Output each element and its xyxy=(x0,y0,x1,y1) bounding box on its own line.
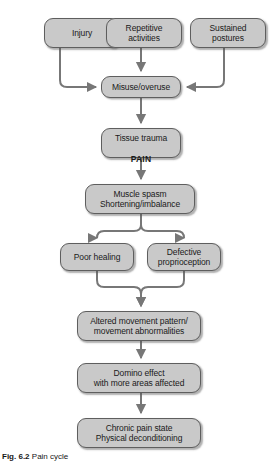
node-altered-movement-pattern: Altered movement pattern/ movement abnor… xyxy=(77,311,201,341)
node-misuse-overuse-label: Misuse/overuse xyxy=(109,82,173,93)
node-sustained-postures: Sustained postures xyxy=(190,18,266,48)
node-tissue-trauma-pain-label: Tissue trauma PAIN xyxy=(112,122,170,164)
tissue-trauma-text: Tissue trauma xyxy=(115,133,167,143)
edge-spasm-to-proprioception xyxy=(141,214,184,238)
node-domino-effect: Domino effect with more areas affected xyxy=(77,363,201,393)
edge-proprioception-to-altered xyxy=(141,271,184,306)
node-defective-proprioception-label: Defective proprioception xyxy=(155,247,213,268)
node-injury-label: Injury xyxy=(69,28,95,39)
edge-poorhealing-to-altered xyxy=(97,271,141,306)
edge-sustained-to-misuse xyxy=(187,48,224,87)
node-domino-effect-label: Domino effect with more areas affected xyxy=(91,368,188,389)
node-misuse-overuse: Misuse/overuse xyxy=(101,76,181,98)
figure-caption-label: Fig. 6.2 xyxy=(2,452,30,461)
node-muscle-spasm-label: Muscle spasm Shortening/imbalance xyxy=(97,189,183,210)
node-tissue-trauma-pain: Tissue trauma PAIN xyxy=(101,128,181,158)
edge-injury-to-misuse xyxy=(60,48,96,87)
arrow-layer xyxy=(0,0,277,463)
node-poor-healing: Poor healing xyxy=(60,243,134,271)
node-altered-movement-pattern-label: Altered movement pattern/ movement abnor… xyxy=(87,316,191,337)
edge-spasm-to-poorhealing xyxy=(97,214,141,238)
node-repetitive-activities-label: Repetitive activities xyxy=(123,23,166,44)
pain-cycle-flowchart: Injury Repetitive activities Sustained p… xyxy=(0,0,277,463)
node-poor-healing-label: Poor healing xyxy=(71,252,124,263)
node-repetitive-activities: Repetitive activities xyxy=(106,18,182,48)
figure-caption: Fig. 6.2 Pain cycle xyxy=(2,452,68,461)
figure-caption-text: Pain cycle xyxy=(32,452,68,461)
pain-text: PAIN xyxy=(131,154,151,164)
node-defective-proprioception: Defective proprioception xyxy=(147,243,221,271)
node-sustained-postures-label: Sustained postures xyxy=(207,23,250,44)
node-chronic-pain-state-label: Chronic pain state Physical deconditioni… xyxy=(93,423,186,444)
node-muscle-spasm: Muscle spasm Shortening/imbalance xyxy=(85,184,195,214)
node-chronic-pain-state: Chronic pain state Physical deconditioni… xyxy=(77,418,201,448)
